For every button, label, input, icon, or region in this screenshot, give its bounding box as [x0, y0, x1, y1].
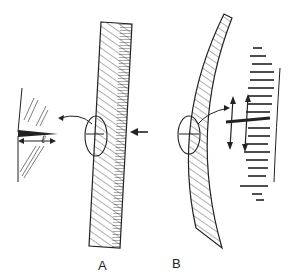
panel-label-b: B	[172, 256, 181, 271]
crack-detail-a	[18, 88, 58, 182]
beam-b	[188, 14, 232, 248]
dimension-label-l: ℓ	[41, 133, 46, 145]
beam-a	[89, 22, 132, 248]
panel-label-a: A	[98, 258, 107, 273]
compression-arrow-icon	[130, 128, 148, 136]
fiber-detail-b	[226, 48, 280, 200]
